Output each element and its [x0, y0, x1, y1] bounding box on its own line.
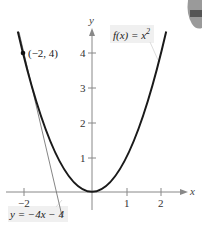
chart: −2 1 2 x 4 3 2 1 y (−2, 4) f(x) = x2 y =… [0, 0, 202, 228]
y-tick-label: 3 [80, 82, 86, 94]
x-tick-label: 2 [158, 197, 164, 209]
parabola-leader-line [150, 42, 158, 60]
page-corner-decoration [188, 0, 203, 29]
x-axis-label: x [189, 185, 195, 197]
y-axis-label: y [88, 14, 94, 26]
y-tick-label: 1 [80, 152, 86, 164]
x-tick-label: 1 [124, 197, 130, 209]
tangent-label: y = −4x − 4 [9, 208, 65, 220]
y-axis-arrow-icon [89, 28, 95, 36]
point-marker [21, 51, 26, 56]
y-tick-label: 4 [80, 47, 86, 59]
y-tick-label: 2 [80, 117, 86, 129]
point-label: (−2, 4) [28, 47, 58, 60]
y-axis: 4 3 2 1 y [80, 14, 96, 210]
parabola-label: f(x) = x2 [113, 27, 150, 42]
x-axis-arrow-icon [180, 189, 188, 195]
